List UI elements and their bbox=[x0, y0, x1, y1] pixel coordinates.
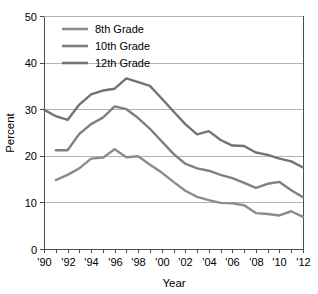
x-axis-title: Year bbox=[162, 277, 185, 289]
x-tick-label-1994: '94 bbox=[84, 256, 98, 268]
line-chart: 01020304050'90'92'94'96'98'00'02'04'06'0… bbox=[0, 0, 318, 294]
y-tick-label-50: 50 bbox=[25, 11, 37, 23]
x-tick-label-2012: '12 bbox=[296, 256, 310, 268]
x-tick-label-1990: '90 bbox=[37, 256, 51, 268]
x-tick-label-2010: '10 bbox=[272, 256, 286, 268]
y-tick-label-30: 30 bbox=[25, 104, 37, 116]
series-line-10th-grade bbox=[56, 106, 303, 197]
chart-canvas: 01020304050'90'92'94'96'98'00'02'04'06'0… bbox=[0, 0, 318, 294]
x-tick-label-1992: '92 bbox=[61, 256, 75, 268]
y-axis-title: Percent bbox=[4, 112, 16, 152]
legend-label-12th-grade: 12th Grade bbox=[95, 57, 150, 69]
y-tick-label-20: 20 bbox=[25, 150, 37, 162]
x-tick-label-2006: '06 bbox=[225, 256, 239, 268]
x-tick-label-2008: '08 bbox=[249, 256, 263, 268]
x-tick-label-1996: '96 bbox=[108, 256, 122, 268]
y-tick-label-40: 40 bbox=[25, 57, 37, 69]
legend-label-8th-grade: 8th Grade bbox=[95, 23, 144, 35]
legend-label-10th-grade: 10th Grade bbox=[95, 40, 150, 52]
y-tick-label-0: 0 bbox=[31, 244, 37, 256]
x-tick-label-2002: '02 bbox=[178, 256, 192, 268]
x-tick-label-1998: '98 bbox=[131, 256, 145, 268]
x-tick-label-2000: '00 bbox=[155, 256, 169, 268]
x-tick-label-2004: '04 bbox=[202, 256, 216, 268]
y-tick-label-10: 10 bbox=[25, 197, 37, 209]
